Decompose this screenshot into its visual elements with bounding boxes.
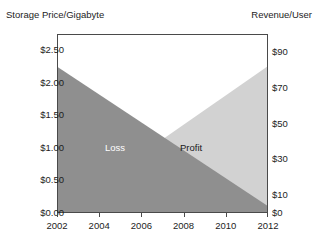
x-tick-mark <box>267 213 268 217</box>
left-tick-label: $2.50 <box>40 44 64 55</box>
right-tick-label: $90 <box>272 46 288 57</box>
x-tick-mark <box>141 213 142 217</box>
x-tick-label: 2010 <box>215 220 236 231</box>
storage-price-revenue-chart: Storage Price/Gigabyte Revenue/User Loss… <box>0 0 316 249</box>
left-axis-title: Storage Price/Gigabyte <box>6 9 104 21</box>
x-tick-label: 2008 <box>173 220 194 231</box>
plot-area: Loss Profit <box>57 34 268 213</box>
right-tick-label: $50 <box>272 118 288 129</box>
x-tick-mark <box>184 213 185 217</box>
left-tick-label: $2.00 <box>40 77 64 88</box>
right-tick-label: $30 <box>272 153 288 164</box>
x-tick-label: 2002 <box>46 220 67 231</box>
right-tick-label: $0 <box>272 207 283 218</box>
left-tick-label: $0.50 <box>40 174 64 185</box>
x-tick-label: 2012 <box>257 220 278 231</box>
right-tick-label: $10 <box>272 189 288 200</box>
left-tick-label: $1.00 <box>40 142 64 153</box>
plot-svg <box>58 35 267 212</box>
x-tick-mark <box>226 213 227 217</box>
x-tick-mark <box>57 213 58 217</box>
left-tick-label: $0.00 <box>40 207 64 218</box>
left-tick-label: $1.50 <box>40 109 64 120</box>
x-tick-label: 2006 <box>131 220 152 231</box>
x-tick-label: 2004 <box>89 220 110 231</box>
right-axis-title: Revenue/User <box>251 9 312 21</box>
right-tick-label: $70 <box>272 82 288 93</box>
x-tick-mark <box>99 213 100 217</box>
